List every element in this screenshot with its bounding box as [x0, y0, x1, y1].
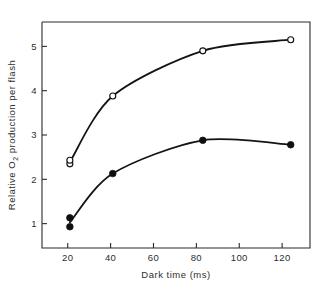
data-point-filled [287, 141, 294, 148]
y-axis-label-main: Relative O [6, 161, 17, 210]
x-tick-label: 80 [191, 252, 202, 263]
x-tick-label: 40 [105, 252, 116, 263]
data-point-open [110, 93, 116, 99]
x-tick-label: 120 [274, 252, 291, 263]
y-tick-label: 2 [31, 174, 37, 185]
y-tick-label: 3 [31, 129, 37, 140]
x-axis-label: Dark time (ms) [141, 269, 210, 280]
y-axis-label-tail: production per flash [6, 60, 17, 157]
figure-container: 20406080100120 12345 Dark time (ms) Rela… [0, 0, 325, 286]
data-point-open [200, 48, 206, 54]
y-axis-label: Relative O2 production per flash [6, 60, 19, 210]
y-tick-label: 4 [31, 85, 37, 96]
x-tick-label: 20 [62, 252, 73, 263]
data-point-filled [200, 137, 207, 144]
data-point-filled [109, 170, 116, 177]
data-point-filled [67, 223, 74, 230]
x-tick-label: 100 [231, 252, 248, 263]
y-tick-label: 5 [31, 41, 37, 52]
data-point-open [288, 37, 294, 43]
y-tick-label: 1 [31, 218, 37, 229]
data-point-open [67, 157, 73, 163]
chart-canvas: 20406080100120 12345 Dark time (ms) Rela… [0, 0, 325, 286]
svg-text:Relative O2 production per fla: Relative O2 production per flash [6, 60, 19, 210]
data-point-filled [67, 215, 74, 222]
x-tick-label: 60 [148, 252, 159, 263]
